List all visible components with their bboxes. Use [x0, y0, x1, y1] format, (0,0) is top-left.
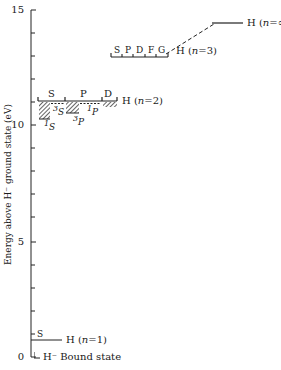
tick-label-15: 15: [4, 5, 24, 15]
n3-term-s: S: [114, 45, 120, 55]
n3-label-prefix: H (: [176, 45, 192, 56]
resonance-3s-label: 3S: [53, 104, 64, 117]
n2-label-eq: =2): [144, 95, 163, 106]
resonance-1p-label: 1P: [87, 104, 98, 117]
bound-state-label: H⁻ Bound state: [43, 352, 121, 362]
resonance-3p-term: P: [78, 117, 84, 127]
resonance-1s-term: S: [49, 122, 55, 132]
n3-term-p: P: [125, 45, 131, 55]
n3-term-g: G: [158, 45, 165, 55]
n3-label-eq: =3): [198, 45, 217, 56]
n2-label-prefix: H (: [122, 95, 138, 106]
y-axis-label: Energy above H⁻ ground state (eV): [4, 104, 13, 265]
n2-term-d: D: [104, 89, 112, 99]
n1-label-prefix: H (: [66, 334, 82, 345]
resonance-3s-term: S: [58, 107, 64, 117]
n2-label: H (n=2): [122, 96, 163, 106]
n3-term-d: D: [136, 45, 143, 55]
n1-label: H (n=1): [66, 335, 107, 345]
n3-label: H (n=3): [176, 46, 217, 56]
ninf-label-eq: =∞): [269, 17, 281, 28]
tick-label-0: 0: [4, 352, 24, 362]
n1-label-eq: =1): [88, 334, 107, 345]
n3-term-f: F: [148, 45, 154, 55]
bound-state-corner: [34, 352, 40, 360]
n2-term-p: P: [80, 89, 87, 99]
resonance-3p-label: 3P: [73, 114, 84, 127]
ninf-label: H (n=∞): [247, 18, 281, 28]
resonance-1s-label: 1S: [44, 119, 55, 132]
n1-term-s: S: [37, 329, 43, 339]
diagram-canvas: [0, 0, 281, 370]
n2-term-s: S: [48, 89, 55, 99]
resonance-1p-term: P: [92, 107, 98, 117]
y-axis: [31, 10, 36, 357]
ninf-label-prefix: H (: [247, 17, 263, 28]
